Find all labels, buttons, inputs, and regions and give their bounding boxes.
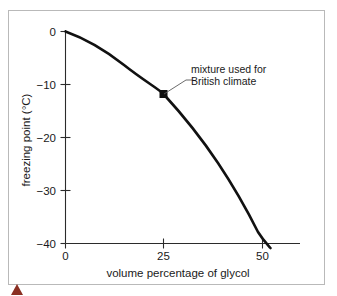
y-axis-title: freezing point (°C) xyxy=(20,93,32,186)
british-climate-marker xyxy=(160,90,168,98)
y-tick-label-minus40: −40 xyxy=(36,238,56,250)
triangle-marker xyxy=(11,284,23,295)
y-tick-label-minus10: −10 xyxy=(36,79,56,91)
figure-root: 0 −10 −20 −30 −40 0 25 50 volume percent… xyxy=(0,0,337,296)
x-axis-title: volume percentage of glycol xyxy=(106,267,249,279)
y-tick-label-0: 0 xyxy=(50,26,56,38)
x-tick-label-50: 50 xyxy=(256,250,269,262)
x-tick-label-0: 0 xyxy=(62,250,68,262)
annotation-text-line-1: mixture used for xyxy=(191,63,267,75)
y-tick-label-minus30: −30 xyxy=(36,185,56,197)
x-tick-label-25: 25 xyxy=(157,250,170,262)
y-tick-label-minus20: −20 xyxy=(36,132,56,144)
annotation-text-line-2: British climate xyxy=(191,75,257,87)
chart-canvas: 0 −10 −20 −30 −40 0 25 50 volume percent… xyxy=(0,0,337,296)
annotation-leader-line xyxy=(164,80,192,94)
